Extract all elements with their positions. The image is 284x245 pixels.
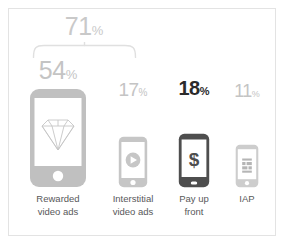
- percent-symbol: %: [252, 89, 260, 99]
- icon-holder-iap: [222, 110, 272, 188]
- icon-holder-pay-up-front: $: [165, 104, 223, 188]
- value-label-iap: 11%: [222, 82, 272, 100]
- percent-symbol: %: [139, 87, 148, 98]
- caption-rewarded-video-ads: Rewarded video ads: [22, 192, 94, 218]
- value-number: 17: [118, 79, 138, 100]
- icon-holder-rewarded: [22, 86, 94, 188]
- column-pay-up-front: 18% $ Pay up front: [165, 58, 223, 230]
- value-label-interstitial-video-ads: 17%: [102, 80, 164, 99]
- svg-text:$: $: [189, 149, 200, 170]
- value-label-pay-up-front: 18%: [165, 78, 223, 98]
- group-total-percent-symbol: %: [92, 23, 104, 38]
- group-total-label: 71%: [52, 14, 116, 39]
- column-iap: 11% IAP: [222, 58, 272, 230]
- caption-iap: IAP: [222, 192, 272, 205]
- infographic-panel: 71% 54%: [0, 0, 284, 245]
- group-total-number: 71: [65, 12, 92, 40]
- category-columns: 54% Rewarded video ads: [10, 58, 274, 230]
- phone-play-icon: [118, 136, 148, 188]
- value-label-rewarded-video-ads: 54%: [22, 58, 94, 83]
- phone-cart-icon: [235, 144, 259, 188]
- column-interstitial-video-ads: 17% Interstitial video ads: [102, 58, 164, 230]
- caption-interstitial-video-ads: Interstitial video ads: [102, 192, 164, 218]
- percent-symbol: %: [200, 85, 210, 97]
- value-number: 11: [234, 81, 252, 101]
- percent-symbol: %: [66, 67, 78, 82]
- value-number: 54: [39, 56, 66, 84]
- phone-diamond-icon: [29, 88, 87, 188]
- column-rewarded-video-ads: 54% Rewarded video ads: [22, 58, 94, 230]
- icon-holder-interstitial: [102, 106, 164, 188]
- caption-pay-up-front: Pay up front: [165, 192, 223, 218]
- value-number: 18: [178, 77, 199, 99]
- phone-dollar-icon: $: [178, 133, 210, 188]
